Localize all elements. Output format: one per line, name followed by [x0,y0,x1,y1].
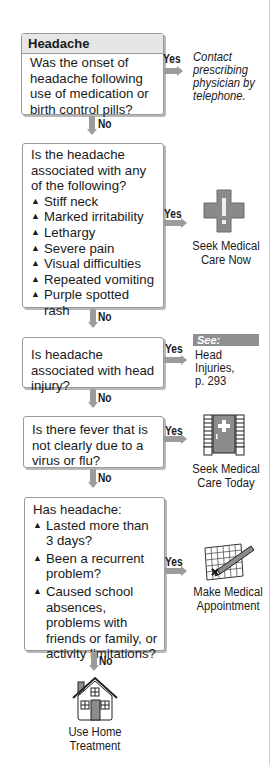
clinic-door-icon [203,414,245,456]
step-3-box: Is headache associated with head injury? [22,337,164,388]
list-item: ▲Caused school absences, problems with f… [33,584,158,662]
step-3-yes-arrow [164,357,182,363]
list-item: ▲Visual difficulties [31,256,157,272]
step-4-box: Is there fever that is not clearly due t… [23,416,164,468]
step-5-box: Has headache: ▲Lasted more than 3 days? … [24,497,165,651]
list-item: ▲Repeated vomiting [31,272,157,288]
list-item: ▲Lasted more than 3 days? [33,518,158,549]
page-margin-rule [269,0,270,765]
step-1-yes-arrow [164,68,178,74]
step-5-content: Has headache: ▲Lasted more than 3 days? … [25,498,164,666]
bullet-triangle-icon: ▲ [31,194,40,210]
step-4-no-label: No [98,471,112,485]
final-outcome: Use Home Treatment [64,726,127,753]
bullet-triangle-icon: ▲ [31,287,40,303]
step-5-yes-outcome: Make Medical Appointment [190,586,266,613]
step-2-yes-label: Yes [164,207,182,221]
step-2-symptom-list: ▲Stiff neck ▲Marked irritability ▲Lethar… [31,194,157,319]
step-2-box: Is the headache associated with any of t… [22,143,164,308]
step-2-content: Is the headache associated with any of t… [23,144,163,323]
bullet-triangle-icon: ▲ [31,209,40,225]
step-2-no-arrow [90,309,96,323]
step-5-no-label: No [99,654,113,668]
step-4-question: Is there fever that is not clearly due t… [24,417,163,473]
list-item: ▲Severe pain [31,241,157,257]
list-item: ▲Lethargy [31,225,157,241]
house-icon [72,676,118,721]
step-1-yes-outcome: Contact prescribing physician by telepho… [193,51,265,103]
step-2-yes-outcome: Seek Medical Care Now [190,240,262,267]
list-item: ▲Stiff neck [31,194,157,210]
bullet-triangle-icon: ▲ [31,225,40,241]
step-2-no-label: No [98,310,112,324]
step-1-yes-label: Yes [163,52,181,66]
list-item: ▲Been a recurrent problem? [33,551,158,582]
step-1-no-label: No [98,117,112,131]
step-1-question: Was the onset of headache following use … [22,54,163,121]
bullet-triangle-icon: ▲ [33,518,42,534]
step-5-no-arrow [91,652,97,666]
bullet-triangle-icon: ▲ [31,256,40,272]
step-5-criteria-list: ▲Lasted more than 3 days? ▲Been a recurr… [33,518,158,662]
step-3-no-arrow [90,389,96,403]
step-1-no-arrow [89,116,95,130]
bullet-triangle-icon: ▲ [33,584,42,600]
step-4-no-arrow [90,469,96,483]
flowchart-title: Headache [22,34,163,54]
medical-cross-icon [203,189,245,233]
step-4-yes-outcome: Seek Medical Care Today [190,463,262,490]
see-reference-label: See: [193,334,259,346]
step-4-yes-label: Yes [165,424,183,438]
step-2-question: Is the headache associated with any of t… [31,147,157,194]
step-5-yes-label: Yes [165,555,183,569]
step-3-yes-outcome: Head Injuries, p. 293 [195,349,235,388]
calendar-pencil-icon [203,542,255,582]
bullet-triangle-icon: ▲ [33,551,42,567]
step-3-yes-label: Yes [165,342,183,356]
bullet-triangle-icon: ▲ [31,241,40,257]
step-1-box: Headache Was the onset of headache follo… [21,33,164,115]
step-3-no-label: No [98,391,112,405]
list-item: ▲Marked irritability [31,209,157,225]
bullet-triangle-icon: ▲ [31,272,40,288]
step-5-question: Has headache: [33,502,158,518]
